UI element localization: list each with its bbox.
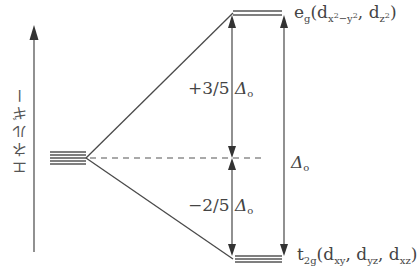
degenerate-d-levels [50, 152, 86, 164]
t2g-open: (d [317, 244, 335, 264]
t2g-main: t [297, 244, 304, 264]
dxy-sub: xy [334, 255, 345, 266]
t2g-sub: 2g [304, 255, 317, 266]
eg-sep: , d [358, 2, 380, 22]
t2g-levels [235, 256, 282, 262]
total-split-delta: Δ [291, 152, 303, 172]
lower-shift-label: −2/5 Δo [188, 195, 253, 216]
dyz-sub: yz [367, 255, 378, 266]
energy-axis-label: エネルギー [2, 60, 38, 200]
eg-open: (d [310, 2, 328, 22]
t2g-sep2: , d [378, 244, 400, 264]
lower-shift-delta: Δ [235, 195, 247, 215]
lower-shift-fraction: −2/5 [188, 195, 235, 215]
t2g-label: t2g(dxy, dyz, dxz) [297, 244, 417, 266]
splitting-lines [86, 13, 233, 259]
total-split-label: Δo [291, 152, 309, 173]
dx2y2-y: −y [339, 13, 353, 24]
eg-close: ) [390, 2, 397, 22]
upper-shift-delta-sub: o [247, 88, 253, 99]
upper-shift-label: +3/5 Δo [188, 78, 253, 99]
upper-shift-delta: Δ [235, 78, 247, 98]
t2g-sep1: , d [345, 244, 367, 264]
eg-label: eg(dx2−y2, dz2) [294, 2, 397, 24]
upper-shift-fraction: +3/5 [188, 78, 235, 98]
total-split-arrow [280, 15, 288, 256]
eg-main: e [294, 2, 304, 22]
eg-levels [233, 11, 282, 15]
total-split-delta-sub: o [303, 162, 309, 173]
lower-shift-delta-sub: o [247, 205, 253, 216]
dxz-sub: xz [400, 255, 411, 266]
t2g-close: ) [411, 244, 418, 264]
splitting-diagram [0, 0, 419, 271]
